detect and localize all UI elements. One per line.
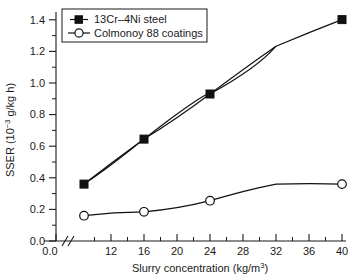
y-tick-label: 1.0 <box>30 77 45 89</box>
y-axis-title: SSER (10−3 g/kg h) <box>3 83 16 177</box>
y-tick-label: 0.8 <box>30 108 45 120</box>
x-tick-label: 32 <box>270 245 282 257</box>
legend-marker-open-circle-icon <box>75 29 83 37</box>
y-tick-label: 0.4 <box>30 172 45 184</box>
x-tick-label: 20 <box>171 245 183 257</box>
data-point-marker <box>140 208 149 217</box>
data-point-marker <box>206 196 215 205</box>
chart-legend: 13Cr–4Ni steel Colmonoy 88 coatings <box>62 9 207 42</box>
x-tick-label: 28 <box>237 245 249 257</box>
x-tick-label: 0.0 <box>42 245 57 257</box>
x-tick-label: 40 <box>336 245 348 257</box>
series-curve-colmonoy-tail <box>276 184 342 185</box>
chart-figure: 0.0 0.2 0.4 0.6 0.8 1.0 1.2 1.4 <box>0 0 352 278</box>
legend-label-colmonoy: Colmonoy 88 coatings <box>94 27 203 39</box>
data-point-marker <box>80 211 89 220</box>
x-tick-label: 16 <box>138 245 150 257</box>
y-tick-label: 1.2 <box>30 45 45 57</box>
x-axis-title: Slurry concentration (kg/m3) <box>132 261 268 274</box>
data-point-marker <box>338 180 347 189</box>
data-point-marker <box>338 16 346 24</box>
data-point-marker <box>80 180 88 188</box>
x-tick-label: 12 <box>105 245 117 257</box>
data-point-marker <box>140 135 148 143</box>
line-chart: 0.0 0.2 0.4 0.6 0.8 1.0 1.2 1.4 <box>0 0 352 278</box>
legend-label-steel: 13Cr–4Ni steel <box>94 13 167 25</box>
y-tick-label: 1.4 <box>30 14 45 26</box>
legend-marker-filled-square-icon <box>75 16 83 23</box>
x-tick-label: 36 <box>303 245 315 257</box>
y-tick-label: 0.2 <box>30 203 45 215</box>
data-point-marker <box>206 90 214 98</box>
y-tick-label: 0.6 <box>30 140 45 152</box>
x-tick-label: 24 <box>204 245 216 257</box>
